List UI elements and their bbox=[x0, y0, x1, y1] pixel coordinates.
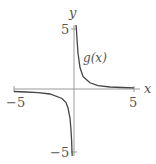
y-axis-label: y bbox=[68, 5, 77, 20]
curve-label: g(x) bbox=[83, 51, 107, 65]
x-tick-label-neg5: −5 bbox=[6, 95, 25, 110]
y-tick-label-neg5: −5 bbox=[50, 145, 69, 160]
x-axis-label: x bbox=[144, 81, 152, 96]
function-plot: −5 5 5 −5 x y g(x) bbox=[0, 0, 156, 164]
x-tick-label-5: 5 bbox=[129, 95, 137, 110]
y-tick-label-5: 5 bbox=[61, 22, 69, 37]
